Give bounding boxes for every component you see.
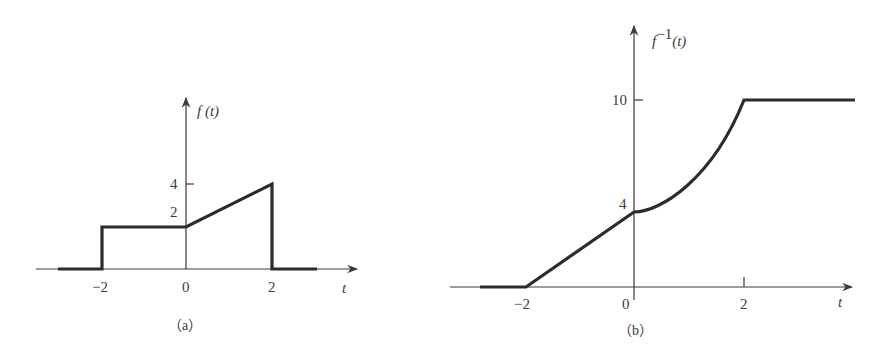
- signal-f-curve: [58, 184, 317, 269]
- caption-a: （a）: [168, 318, 202, 333]
- x-tick-label-0-a: 0: [182, 279, 190, 295]
- chart-b: f−1(t) t 10 4 −2 0 2 （b）: [450, 26, 855, 338]
- x-tick-label-0-b: 0: [622, 296, 630, 312]
- x-tick-label-neg2-b: −2: [514, 296, 530, 312]
- y-axis-label-b: f−1(t): [652, 26, 686, 50]
- y-tick-label-4-a: 4: [170, 176, 178, 192]
- x-axis-label-a: t: [342, 280, 347, 296]
- caption-b: （b）: [618, 323, 653, 338]
- y-tick-label-4-b: 4: [619, 196, 627, 212]
- y-tick-label-10-b: 10: [612, 92, 627, 108]
- signal-f-inverse-curve: [480, 100, 855, 287]
- x-tick-label-neg2-a: −2: [92, 279, 108, 295]
- y-axis-label-a: f (t): [197, 103, 219, 120]
- y-tick-label-2-a: 2: [170, 204, 178, 220]
- x-tick-label-2-b: 2: [740, 296, 748, 312]
- chart-a: f (t) t 4 2 −2 0 2 （a）: [36, 98, 357, 333]
- x-axis-label-b: t: [838, 294, 843, 310]
- x-tick-label-2-a: 2: [268, 279, 276, 295]
- figure: f (t) t 4 2 −2 0 2 （a） f−1(t) t 10 4 −2 …: [0, 0, 885, 355]
